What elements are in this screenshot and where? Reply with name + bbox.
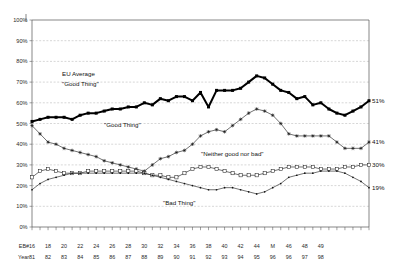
data-point [87,112,90,115]
y-axis-label: 30% [16,162,27,168]
data-point [247,174,250,177]
x-axis-year-label: 95 [254,254,260,260]
data-point [255,74,258,77]
data-point [30,176,33,179]
y-axis-label: 20% [16,183,27,189]
data-point [175,151,179,155]
data-point [223,89,226,92]
data-point [102,159,106,163]
data-point [248,191,250,193]
data-point [151,163,155,167]
y-axis-label: 60% [16,100,27,106]
x-axis-year-label: 94 [238,254,244,260]
data-point [191,167,194,170]
data-point [367,140,371,144]
data-point [127,170,130,173]
data-point [95,172,97,174]
data-point [351,165,354,168]
data-point [160,176,162,178]
series-end-label-2: 30% [372,161,385,168]
data-point [287,165,290,168]
data-point [224,187,226,189]
data-point [232,187,234,189]
data-point [62,147,66,151]
data-point [304,172,306,174]
data-point [215,167,218,170]
series-line-3 [32,171,369,194]
data-point [368,187,370,189]
data-point [271,170,274,173]
data-point [184,183,186,185]
x-axis-eb-label: 40 [222,243,228,249]
data-point [344,172,346,174]
data-point [335,112,338,115]
x-axis-year-label: 82 [45,254,51,260]
data-point [152,174,154,176]
x-axis-year-label: 91 [189,254,195,260]
data-point [175,95,178,98]
data-point [223,170,226,173]
data-point [303,134,307,138]
data-point [119,170,122,173]
data-point [231,89,234,92]
data-point [295,97,298,100]
data-point [71,118,74,121]
data-point [239,87,242,90]
data-point [223,130,227,134]
data-point [335,167,338,170]
x-axis-year-label: 96 [286,254,292,260]
data-point [311,134,315,138]
data-point [54,170,57,173]
x-axis-year-label: 89 [157,254,163,260]
data-point [46,140,50,144]
x-axis-eb-label: 28 [125,243,131,249]
y-axis-label: 50% [16,121,27,127]
data-point [207,105,210,108]
data-point [288,176,290,178]
data-point [119,172,121,174]
data-point [119,108,122,111]
data-point [360,181,362,183]
data-point [296,174,298,176]
data-point [39,183,41,185]
data-point [279,122,283,126]
x-axis-eb-label: 48 [302,243,308,249]
data-point [351,110,354,113]
data-point [271,113,275,117]
y-axis-label: 0% [19,224,27,230]
y-axis-label: 100% [13,17,27,23]
data-point [312,172,314,174]
data-point [199,165,202,168]
x-axis-eb-label: 34 [173,243,179,249]
x-axis-eb-label: 20 [61,243,67,249]
line-chart: 0%10%20%30%40%50%60%70%80%90%100%EB#Year… [0,0,414,274]
series-end-label-1: 41% [372,138,385,145]
chart-annotation-2: "Good Thing" [104,121,141,128]
data-point [272,187,274,189]
data-point [264,191,266,193]
data-point [159,157,163,161]
data-point [168,179,170,181]
x-axis-year-label: 83 [61,254,67,260]
data-point [126,165,130,169]
data-point [191,142,195,146]
y-axis-label: 70% [16,79,27,85]
data-point [94,155,98,159]
data-point [279,89,282,92]
data-point [255,174,258,177]
data-point [368,99,371,102]
data-point [352,176,354,178]
x-axis-eb-label: 16 [29,243,35,249]
data-point [111,170,114,173]
data-point [151,103,154,106]
data-point [159,174,162,177]
data-point [359,105,362,108]
data-point [215,89,218,92]
data-point [279,167,282,170]
data-point [319,101,322,104]
data-point [87,172,89,174]
data-point [47,179,49,181]
data-point [183,172,186,175]
x-axis-eb-label: 18 [45,243,51,249]
x-axis-eb-label: 38 [206,243,212,249]
